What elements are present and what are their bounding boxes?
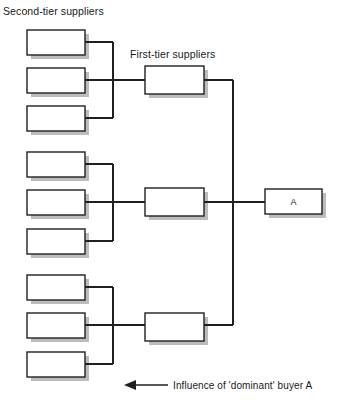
second-tier-box-1-3[interactable]: [27, 106, 85, 131]
second-tier-caption: Second-tier suppliers: [3, 5, 104, 17]
second-tier-box-1-1[interactable]: [27, 30, 85, 55]
first-tier-box-2[interactable]: [145, 188, 204, 216]
second-tier-box-3-3[interactable]: [27, 352, 85, 377]
second-tier-boxes: [27, 30, 85, 377]
influence-arrow-label: Influence of 'dominant' buyer A: [173, 380, 312, 391]
first-tier-caption: First-tier suppliers: [130, 48, 215, 60]
second-tier-box-2-1[interactable]: [27, 152, 85, 177]
second-tier-box-3-2[interactable]: [27, 313, 85, 338]
second-tier-box-1-2[interactable]: [27, 68, 85, 93]
second-tier-box-2-2[interactable]: [27, 190, 85, 215]
first-tier-box-3[interactable]: [145, 313, 204, 341]
influence-arrow-icon: [124, 380, 168, 390]
buyer-a-label: A: [290, 197, 296, 207]
first-tier-boxes: [145, 66, 204, 341]
second-tier-box-3-1[interactable]: [27, 275, 85, 300]
supply-chain-diagram: A Second-tier suppliers First-tier suppl…: [0, 0, 338, 411]
diagram-canvas: A Second-tier suppliers First-tier suppl…: [0, 0, 338, 411]
first-tier-box-1[interactable]: [145, 66, 204, 94]
second-tier-box-2-3[interactable]: [27, 229, 85, 254]
